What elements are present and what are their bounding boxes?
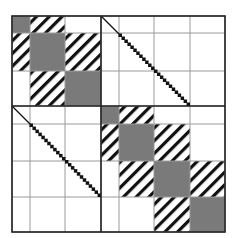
diagonal-step [136, 52, 139, 56]
diagonal-step [145, 61, 148, 65]
diagonal-step [142, 58, 145, 62]
diagonal-step [80, 175, 83, 179]
hatched-block [119, 106, 154, 124]
diagonal-step [119, 34, 122, 38]
diagonal-step [68, 163, 71, 167]
dense-block [12, 16, 30, 33]
diagonal-step [148, 64, 151, 68]
diagonal-step [32, 127, 35, 131]
hatched-block [65, 33, 101, 71]
hatched-block [154, 124, 190, 161]
diagonal-step [124, 40, 127, 44]
diagonal-step [175, 91, 178, 95]
diagonal-step [30, 124, 33, 128]
diagonal-step [139, 55, 142, 59]
diagonal-step [157, 73, 160, 77]
diagonal-step [92, 187, 95, 191]
hatched-block [101, 124, 119, 161]
hatched-block [30, 16, 65, 33]
diagonal-step [133, 49, 136, 53]
diagonal-step [151, 67, 154, 71]
block-matrix-diagram [0, 0, 235, 238]
dense-block [154, 161, 190, 197]
diagonal-step [178, 94, 181, 98]
hatched-block [12, 33, 30, 71]
diagonal-step [65, 160, 68, 164]
diagonal-step [35, 130, 38, 134]
diagonal-step [47, 142, 50, 146]
diagonal-step [56, 151, 59, 155]
diagonal-step [77, 172, 80, 176]
hatched-block [190, 161, 225, 197]
hatched-block [154, 197, 190, 232]
diagonal-step [74, 169, 77, 173]
diagonal-step [154, 70, 157, 74]
diagonal-step [172, 88, 175, 92]
diagonal-step [83, 178, 86, 182]
diagonal-step [71, 166, 74, 170]
diagonal-step [121, 37, 124, 41]
dense-block [30, 33, 65, 71]
diagonal-step [59, 154, 62, 158]
diagonal-step [169, 85, 172, 89]
diagonal-step [163, 79, 166, 83]
diagonal-line [101, 16, 119, 34]
diagonal-step [160, 76, 163, 80]
diagonal-step [127, 43, 130, 47]
dense-block [119, 124, 154, 161]
diagonal-step [130, 46, 133, 50]
diagonal-step [89, 184, 92, 188]
hatched-block [119, 161, 154, 197]
dense-block [190, 197, 225, 232]
diagonal-step [50, 145, 53, 149]
diagonal-step [184, 100, 187, 104]
diagonal-step [41, 136, 44, 140]
diagonal-step [181, 97, 184, 101]
diagonal-step [95, 190, 98, 194]
dense-block [101, 106, 119, 124]
diagonal-line [12, 106, 30, 124]
diagonal-step [166, 82, 169, 86]
dense-block [65, 71, 101, 106]
diagonal-step [53, 148, 56, 152]
diagonal-step [86, 181, 89, 185]
diagonal-step [44, 139, 47, 143]
hatched-block [30, 71, 65, 106]
diagonal-step [62, 157, 65, 161]
diagonal-step [38, 133, 41, 137]
